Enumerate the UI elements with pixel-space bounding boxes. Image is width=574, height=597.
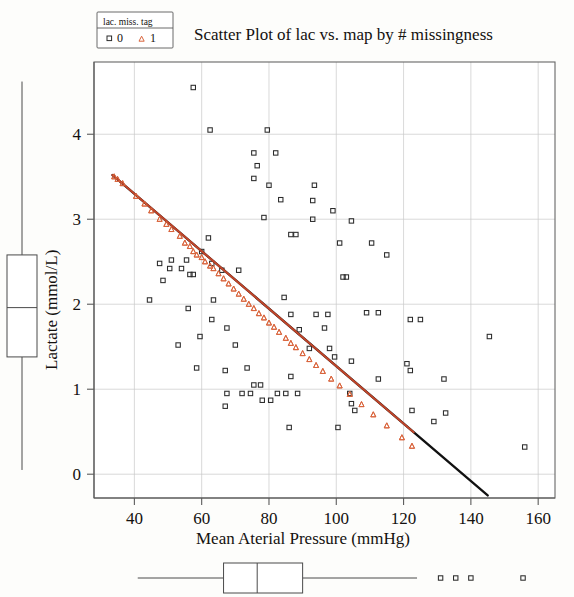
y-axis: 01234 <box>73 62 95 498</box>
chart-title: Scatter Plot of lac vs. map by # missing… <box>194 25 493 44</box>
scatter-plot-figure: Scatter Plot of lac vs. map by # missing… <box>0 0 574 597</box>
x-axis-tick-label: 80 <box>260 509 277 528</box>
legend-title: lac. miss. tag <box>103 17 153 27</box>
boxplot-box <box>224 563 303 593</box>
x-axis-tick-label: 160 <box>525 509 551 528</box>
x-marginal-boxplot <box>138 563 525 593</box>
y-axis-tick-label: 3 <box>73 210 82 229</box>
y-axis-tick-label: 1 <box>73 380 82 399</box>
boxplot-outlier-point <box>454 576 458 580</box>
boxplot-box <box>7 255 37 357</box>
boxplot-outlier-point <box>438 576 442 580</box>
y-axis-label: Lactate (mmol/L) <box>42 250 61 370</box>
x-axis: 406080100120140160 <box>94 498 555 528</box>
x-axis-tick-label: 120 <box>391 509 417 528</box>
y-axis-tick-label: 2 <box>73 295 82 314</box>
x-axis-label: Mean Aterial Pressure (mmHg) <box>196 529 410 548</box>
chart-canvas: Scatter Plot of lac vs. map by # missing… <box>0 0 574 597</box>
y-axis-tick-label: 4 <box>73 125 82 144</box>
y-axis-tick-label: 0 <box>73 465 82 484</box>
legend-label-0: 0 <box>117 31 123 45</box>
y-marginal-boxplot <box>7 82 37 470</box>
legend-label-1: 1 <box>150 31 156 45</box>
x-axis-tick-label: 140 <box>458 509 484 528</box>
boxplot-outlier-point <box>469 576 473 580</box>
x-axis-tick-label: 40 <box>126 509 143 528</box>
boxplot-outlier-point <box>521 576 525 580</box>
x-axis-tick-label: 60 <box>193 509 210 528</box>
x-axis-tick-label: 100 <box>324 509 350 528</box>
legend: lac. miss. tag 0 1 <box>97 12 173 48</box>
plot-background <box>94 62 555 498</box>
plot-panel <box>94 62 555 498</box>
